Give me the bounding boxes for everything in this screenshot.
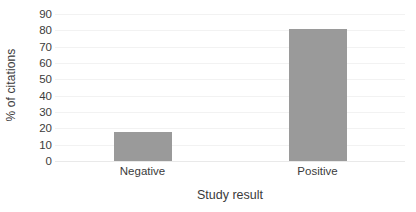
gridline xyxy=(55,161,405,162)
y-axis-tick-label: 50 xyxy=(22,73,52,85)
bar xyxy=(289,29,347,161)
x-axis-tick-label: Negative xyxy=(88,164,198,178)
gridline xyxy=(55,79,405,80)
plot-area xyxy=(55,14,405,161)
y-axis-title: % of citations xyxy=(2,10,20,160)
y-axis-tick-label: 60 xyxy=(22,57,52,69)
x-axis-tick-label: Positive xyxy=(263,164,373,178)
y-axis-tick-label: 20 xyxy=(22,122,52,134)
y-axis-tick-label: 80 xyxy=(22,24,52,36)
y-axis-tick-label: 90 xyxy=(22,8,52,20)
gridline xyxy=(55,128,405,129)
gridline xyxy=(55,14,405,15)
gridline xyxy=(55,145,405,146)
y-axis-tick-label: 40 xyxy=(22,90,52,102)
gridline xyxy=(55,112,405,113)
gridline xyxy=(55,96,405,97)
y-axis-tick-label: 0 xyxy=(22,155,52,167)
y-axis-tick-label: 10 xyxy=(22,139,52,151)
gridline xyxy=(55,30,405,31)
gridline xyxy=(55,63,405,64)
x-axis-title: Study result xyxy=(55,187,405,203)
y-axis-tick-label: 70 xyxy=(22,41,52,53)
gridline xyxy=(55,47,405,48)
y-axis-tick-label: 30 xyxy=(22,106,52,118)
bar-chart: % of citations 9080706050403020100 Negat… xyxy=(0,0,416,212)
bar xyxy=(114,132,172,161)
